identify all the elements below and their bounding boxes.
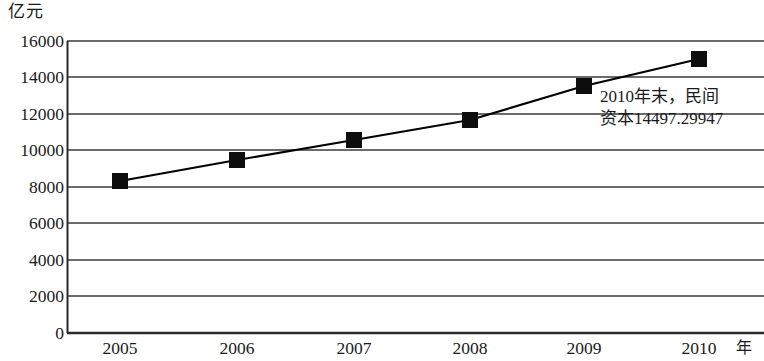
gridlines bbox=[67, 41, 764, 296]
chart-container: 亿元 16000 14000 12000 10000 8000 6000 400… bbox=[0, 0, 764, 361]
data-point-2010 bbox=[691, 51, 707, 67]
annotation-line-1: 2010年末，民间 bbox=[600, 86, 723, 108]
annotation-line-2: 资本14497.29947 bbox=[600, 108, 723, 130]
x-tick-2008: 2008 bbox=[430, 338, 510, 358]
x-tick-2005: 2005 bbox=[80, 338, 160, 358]
data-point-2008 bbox=[462, 112, 478, 128]
x-tick-2009: 2009 bbox=[544, 338, 624, 358]
x-tick-2010: 2010 bbox=[659, 338, 739, 358]
data-point-2009 bbox=[576, 78, 592, 94]
data-point-2007 bbox=[346, 132, 362, 148]
data-point-2006 bbox=[229, 152, 245, 168]
data-point-2005 bbox=[112, 173, 128, 189]
plot-area bbox=[0, 0, 764, 361]
x-axis-unit-label: 年 bbox=[736, 338, 752, 358]
x-tick-2007: 2007 bbox=[314, 338, 394, 358]
x-tick-2006: 2006 bbox=[197, 338, 277, 358]
annotation-2010-minjian-ziben: 2010年末，民间 资本14497.29947 bbox=[600, 86, 723, 130]
